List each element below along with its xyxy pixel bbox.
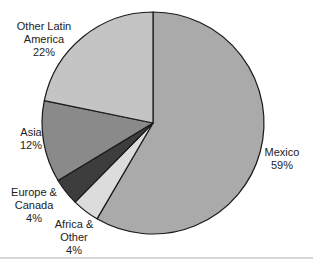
label-value: 12% [16,139,46,152]
label-line: Mexico [262,146,302,159]
label-europe-canada: Europe & Canada 4% [10,186,58,225]
label-line: Canada [10,199,58,212]
label-value: 4% [10,212,58,225]
label-value: 22% [14,46,74,59]
label-mexico: Mexico 59% [262,146,302,172]
label-line: Other Latin [14,20,74,33]
label-line: Europe & [10,186,58,199]
bottom-divider [0,257,313,259]
label-line: Asia [16,126,46,139]
label-other-latin-america: Other Latin America 22% [14,20,74,59]
label-line: America [14,33,74,46]
label-value: 59% [262,159,302,172]
label-africa-other: Africa & Other 4% [52,218,96,257]
label-line: Africa & [52,218,96,231]
label-line: Other [52,231,96,244]
label-value: 4% [52,244,96,257]
label-asia: Asia 12% [16,126,46,152]
